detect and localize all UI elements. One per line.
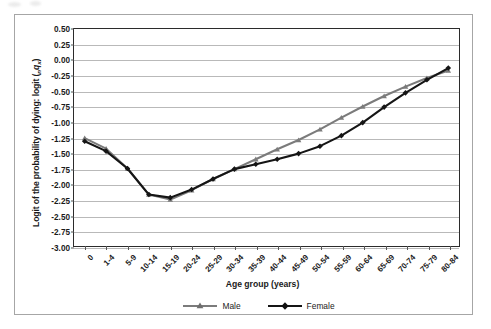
chart-legend: Male Female bbox=[15, 301, 472, 311]
x-tick-label: 80-84 bbox=[440, 253, 461, 274]
x-tick-label: 1-4 bbox=[102, 253, 117, 268]
data-point-marker bbox=[274, 156, 280, 162]
series-line bbox=[85, 71, 449, 200]
x-tick-label: 10-14 bbox=[139, 253, 160, 274]
x-tick-mark bbox=[364, 246, 365, 250]
data-series-layer bbox=[74, 29, 459, 246]
y-tick-label: -1.75 bbox=[51, 165, 70, 174]
x-tick-mark bbox=[321, 246, 322, 250]
y-tick-label: -0.25 bbox=[51, 71, 70, 80]
y-tick-label: 0.50 bbox=[54, 25, 70, 34]
x-tick-label: 0 bbox=[86, 253, 96, 263]
legend-entry-male: Male bbox=[182, 301, 240, 311]
x-tick-label: 55-59 bbox=[332, 253, 353, 274]
x-tick-mark bbox=[128, 246, 129, 250]
scan-artifact-right bbox=[30, 1, 41, 6]
y-tick-label: -3.00 bbox=[51, 244, 70, 253]
y-tick-label: -2.50 bbox=[51, 212, 70, 221]
x-tick-label: 45-49 bbox=[289, 253, 310, 274]
y-axis-title-main: Logit of the probability of dying: logit… bbox=[31, 74, 41, 227]
x-tick-label: 50-54 bbox=[311, 253, 332, 274]
x-axis-title: Age group (years) bbox=[15, 279, 472, 289]
y-tick-label: 0.25 bbox=[54, 40, 70, 49]
y-tick-label: -2.00 bbox=[51, 181, 70, 190]
x-tick-mark bbox=[278, 246, 279, 250]
legend-swatch-male bbox=[182, 301, 218, 311]
series-line bbox=[85, 68, 449, 198]
x-tick-mark bbox=[149, 246, 150, 250]
x-tick-label: 60-64 bbox=[354, 253, 375, 274]
x-tick-mark bbox=[407, 246, 408, 250]
y-axis-title-subscript-x: x bbox=[35, 61, 42, 64]
series-female bbox=[82, 65, 451, 200]
y-tick-label: -2.75 bbox=[51, 228, 70, 237]
y-tick-mark bbox=[71, 248, 74, 249]
y-tick-label: -1.50 bbox=[51, 150, 70, 159]
x-tick-mark bbox=[450, 246, 451, 250]
y-axis-title-variable-q: q bbox=[31, 65, 41, 70]
x-tick-label: 65-69 bbox=[375, 253, 396, 274]
data-point-marker bbox=[296, 151, 302, 157]
legend-swatch-female bbox=[267, 301, 303, 311]
x-tick-mark bbox=[171, 246, 172, 250]
y-tick-label: -2.25 bbox=[51, 197, 70, 206]
legend-entry-female: Female bbox=[267, 301, 335, 311]
x-tick-label: 75-79 bbox=[418, 253, 439, 274]
x-tick-label: 15-19 bbox=[160, 253, 181, 274]
x-tick-mark bbox=[386, 246, 387, 250]
y-tick-label: -0.75 bbox=[51, 103, 70, 112]
x-tick-label: 40-44 bbox=[268, 253, 289, 274]
x-tick-mark bbox=[300, 246, 301, 250]
y-axis-title-close-paren: ) bbox=[31, 59, 41, 62]
y-axis-title: Logit of the probability of dying: logit… bbox=[31, 35, 43, 250]
legend-label-male: Male bbox=[222, 301, 240, 311]
y-tick-label: 0.00 bbox=[54, 56, 70, 65]
x-tick-label: 70-74 bbox=[397, 253, 418, 274]
x-tick-mark bbox=[235, 246, 236, 250]
x-tick-label: 35-39 bbox=[246, 253, 267, 274]
x-tick-mark bbox=[343, 246, 344, 250]
legend-label-female: Female bbox=[307, 301, 335, 311]
gridline bbox=[74, 248, 459, 249]
x-tick-mark bbox=[192, 246, 193, 250]
x-tick-mark bbox=[429, 246, 430, 250]
plot-area: 0.500.250.00-0.25-0.50-0.75-1.00-1.25-1.… bbox=[73, 28, 460, 247]
y-tick-label: -1.00 bbox=[51, 118, 70, 127]
x-tick-mark bbox=[214, 246, 215, 250]
y-axis-title-subscript-n: n bbox=[35, 70, 42, 74]
x-tick-label: 5-9 bbox=[124, 253, 139, 268]
x-tick-mark bbox=[257, 246, 258, 250]
chart-figure-frame: Logit of the probability of dying: logit… bbox=[14, 14, 473, 315]
y-tick-label: -1.25 bbox=[51, 134, 70, 143]
y-tick-label: -0.50 bbox=[51, 87, 70, 96]
x-tick-label: 20-24 bbox=[182, 253, 203, 274]
scan-artifact-left bbox=[8, 2, 21, 7]
x-tick-label: 30-34 bbox=[225, 253, 246, 274]
x-tick-label: 25-29 bbox=[203, 253, 224, 274]
x-tick-mark bbox=[85, 246, 86, 250]
data-point-marker bbox=[253, 161, 259, 167]
x-tick-mark bbox=[106, 246, 107, 250]
